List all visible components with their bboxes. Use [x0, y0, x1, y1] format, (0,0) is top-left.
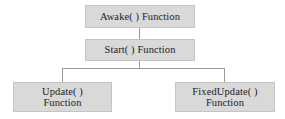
node-awake-label: Awake( ) Function	[100, 11, 180, 23]
node-start-label: Start( ) Function	[104, 44, 175, 56]
connector-awake-to-start	[139, 28, 140, 39]
node-fixedupdate-function: FixedUpdate( ) Function	[175, 82, 275, 112]
node-fixedupdate-label: FixedUpdate( ) Function	[192, 86, 257, 109]
node-update-function: Update( ) Function	[13, 82, 112, 112]
connector-branch-to-update	[62, 68, 63, 82]
node-awake-function: Awake( ) Function	[85, 5, 195, 28]
node-start-function: Start( ) Function	[85, 39, 195, 61]
connector-branch-bar	[62, 68, 225, 69]
connector-branch-to-fixedupdate	[224, 68, 225, 82]
flowchart-diagram: Awake( ) Function Start( ) Function Upda…	[0, 0, 285, 119]
node-update-label: Update( ) Function	[42, 86, 83, 109]
